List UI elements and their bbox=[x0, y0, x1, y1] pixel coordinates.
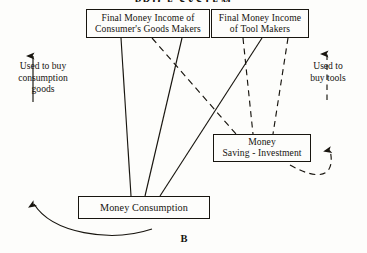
node-money-saving-investment: Money Saving - Investment bbox=[213, 134, 311, 162]
edge-consumer-income-to-saving bbox=[152, 38, 236, 134]
node-money-saving-investment-label: Money Saving - Investment bbox=[222, 137, 301, 158]
node-money-consumption-label: Money Consumption bbox=[100, 202, 188, 213]
node-money-consumption: Money Consumption bbox=[78, 196, 210, 219]
edge-tool-income-to-saving-right bbox=[273, 38, 288, 134]
node-consumer-goods-income-label: Final Money Income of Consumer's Goods M… bbox=[95, 13, 201, 34]
node-tool-makers-income-label: Final Money Income of Tool Makers bbox=[219, 13, 301, 34]
edge-tool-income-to-consumption bbox=[160, 38, 262, 196]
edge-consumer-income-to-consumption-right bbox=[145, 38, 182, 196]
diagram-canvas: PRICE SYSTEM bbox=[0, 0, 367, 253]
edge-tool-income-to-saving-left bbox=[243, 38, 253, 134]
node-consumer-goods-income: Final Money Income of Consumer's Goods M… bbox=[86, 9, 210, 38]
label-used-to-buy-consumption-goods: Used to buy consumption goods bbox=[4, 60, 82, 95]
figure-key-label: B bbox=[170, 233, 198, 244]
figure-title: PRICE SYSTEM bbox=[0, 0, 367, 2]
label-used-to-buy-tools: Used to buy tools bbox=[292, 60, 364, 83]
node-tool-makers-income: Final Money Income of Tool Makers bbox=[211, 9, 309, 38]
edge-consumer-income-to-consumption-left bbox=[121, 38, 131, 196]
